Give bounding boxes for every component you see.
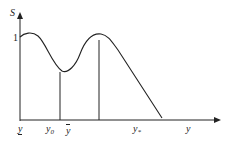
x-axis-label: y (186, 124, 190, 134)
x-tick-y0: y0 (46, 124, 54, 136)
y-axis-arrow-icon (17, 12, 23, 19)
curve-S (20, 33, 162, 118)
y-axis-label: S (10, 8, 15, 18)
y-tick-1: 1 (13, 33, 18, 43)
x-tick-y-overline: y (66, 124, 70, 136)
x-tick-y-star: y* (133, 124, 141, 136)
x-axis-arrow-icon (214, 117, 221, 123)
diagram-canvas (0, 0, 227, 144)
x-tick-y-underline: y (18, 124, 22, 135)
